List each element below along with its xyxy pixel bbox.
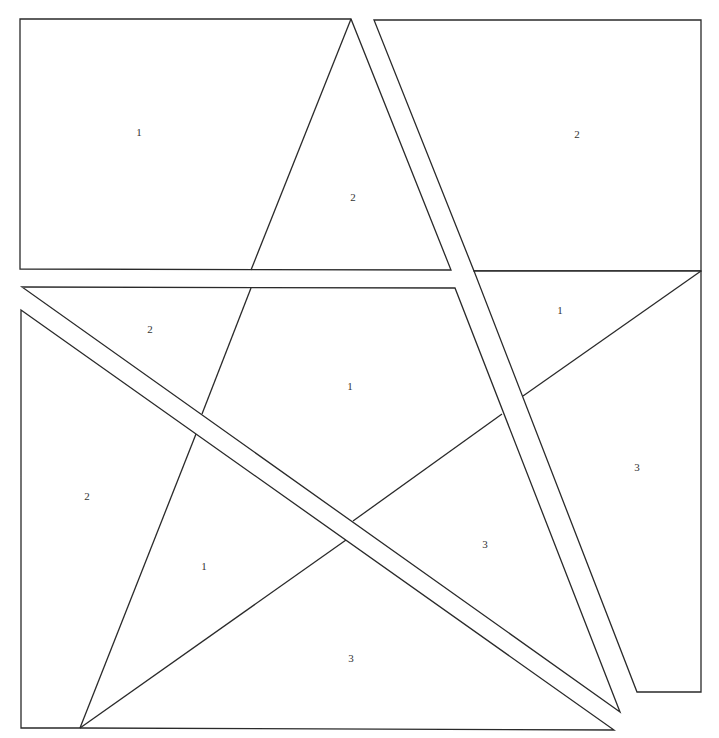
label-top-star-tip: 2: [350, 191, 356, 203]
piece-top-left-rect: [20, 19, 451, 270]
label-lower-left-star: 1: [201, 560, 207, 572]
puzzle-diagram: 12221121333: [0, 0, 719, 738]
star-dissection-canvas: 12221121333: [0, 0, 719, 738]
label-top-left: 1: [136, 126, 142, 138]
pieces-layer: [20, 19, 701, 730]
label-right-column: 3: [634, 461, 640, 473]
label-bottom: 3: [348, 652, 354, 664]
label-right-triangle: 1: [557, 304, 563, 316]
label-left-column: 2: [84, 490, 90, 502]
label-mid-left: 2: [147, 323, 153, 335]
label-top-right: 2: [574, 128, 580, 140]
label-lower-center: 3: [482, 538, 488, 550]
label-center: 1: [347, 380, 353, 392]
